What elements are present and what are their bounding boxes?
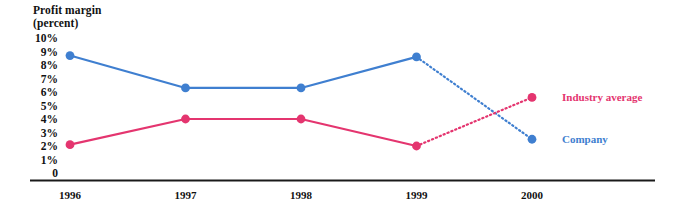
data-point-marker <box>412 53 421 62</box>
data-point-marker <box>181 115 190 124</box>
legend-label: Industry average <box>562 91 642 103</box>
series-line-solid <box>70 56 417 88</box>
chart-plot-area <box>0 0 689 214</box>
series-line-solid <box>70 119 417 146</box>
x-tick-label: 1996 <box>59 189 81 201</box>
data-point-marker <box>297 84 306 93</box>
x-tick-label: 2000 <box>521 189 543 201</box>
series-line-projected <box>417 57 533 139</box>
legend-label: Company <box>562 133 608 145</box>
data-point-marker <box>66 51 75 60</box>
x-tick-label: 1998 <box>290 189 312 201</box>
data-point-marker <box>181 84 190 93</box>
series-line-projected <box>417 97 533 146</box>
x-tick-label: 1999 <box>406 189 428 201</box>
data-point-marker <box>66 140 75 149</box>
x-tick-label: 1997 <box>175 189 197 201</box>
data-point-marker <box>412 142 421 151</box>
profit-margin-line-chart: Profit margin (percent) 10%9%8%7%6%5%4%3… <box>0 0 689 214</box>
data-point-marker <box>528 135 537 144</box>
data-point-marker <box>297 115 306 124</box>
data-point-marker <box>528 93 537 102</box>
